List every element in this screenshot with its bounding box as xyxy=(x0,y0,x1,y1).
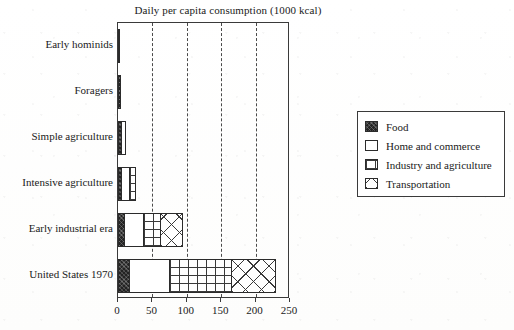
legend-swatch-food-icon xyxy=(365,121,378,132)
chart-page: Daily per capita consumption (1000 kcal)… xyxy=(0,0,514,330)
bar-stack xyxy=(118,75,121,109)
bar-stack xyxy=(118,259,276,293)
bar-segment-food xyxy=(118,29,120,63)
bar-segment-home xyxy=(121,121,126,155)
x-axis-tick-label: 200 xyxy=(246,304,263,316)
legend-swatch-transport-icon xyxy=(365,178,378,189)
y-axis-label: United States 1970 xyxy=(1,268,113,280)
bar-segment-industry xyxy=(129,167,136,201)
bar-stack xyxy=(118,213,183,247)
y-axis-label: Foragers xyxy=(1,84,113,96)
x-axis: 050100150200250 xyxy=(117,298,289,324)
chart-title: Daily per capita consumption (1000 kcal) xyxy=(118,4,338,16)
bar-segment-home xyxy=(124,213,144,247)
legend-swatch-industry-icon xyxy=(365,159,378,170)
legend-swatch-home-icon xyxy=(365,140,378,151)
bar-segment-home xyxy=(129,259,169,293)
legend-item[interactable]: Industry and agriculture xyxy=(358,155,504,174)
x-axis-tick xyxy=(220,298,221,302)
bar-stack xyxy=(118,121,126,155)
x-axis-tick-label: 50 xyxy=(146,304,157,316)
gridline xyxy=(256,23,257,297)
y-axis-label: Early hominids xyxy=(1,38,113,50)
legend-label: Industry and agriculture xyxy=(386,159,492,171)
y-axis-label: Intensive agriculture xyxy=(1,176,113,188)
bar-stack xyxy=(118,29,120,63)
legend-label: Transportation xyxy=(386,178,450,190)
legend-label: Home and commerce xyxy=(386,140,480,152)
x-axis-tick xyxy=(289,298,290,302)
bar-stack xyxy=(118,167,136,201)
plot-area xyxy=(117,22,289,298)
gridline xyxy=(187,23,188,297)
y-axis-category-labels: Early hominidsForagersSimple agriculture… xyxy=(0,22,113,298)
x-axis-tick-label: 0 xyxy=(114,304,120,316)
x-axis-tick xyxy=(117,298,118,302)
legend-label: Food xyxy=(386,121,409,133)
x-axis-tick-label: 150 xyxy=(212,304,229,316)
chart-legend: FoodHome and commerceIndustry and agricu… xyxy=(357,111,505,197)
legend-item[interactable]: Transportation xyxy=(358,174,504,193)
x-axis-tick-label: 250 xyxy=(281,304,298,316)
x-axis-tick-label: 100 xyxy=(178,304,195,316)
legend-item[interactable]: Food xyxy=(358,117,504,136)
y-axis-label: Simple agriculture xyxy=(1,130,113,142)
bar-segment-industry xyxy=(169,259,233,293)
gridline xyxy=(221,23,222,297)
bar-segment-food xyxy=(118,75,121,109)
gridline xyxy=(152,23,153,297)
bar-segment-industry xyxy=(143,213,161,247)
bar-segment-transport xyxy=(231,259,276,293)
y-axis-label: Early industrial era xyxy=(1,222,113,234)
bar-segment-transport xyxy=(160,213,184,247)
x-axis-tick xyxy=(186,298,187,302)
x-axis-tick xyxy=(151,298,152,302)
legend-item[interactable]: Home and commerce xyxy=(358,136,504,155)
x-axis-tick xyxy=(255,298,256,302)
